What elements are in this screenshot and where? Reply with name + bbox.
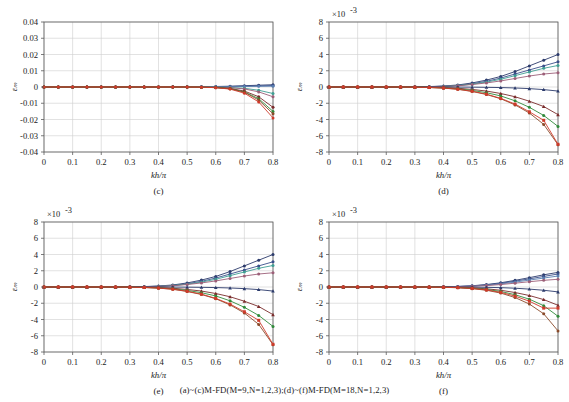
series-marker bbox=[542, 73, 545, 76]
y-tick-label: -2 bbox=[316, 98, 323, 108]
series-marker bbox=[214, 279, 217, 282]
y-tick-label: 2 bbox=[319, 266, 323, 276]
x-tick-label: 0.7 bbox=[239, 157, 250, 167]
figure-caption: (a)~(c)M-FD(M=9,N=1,2,3);(d)~(f)M-FD(M=1… bbox=[0, 385, 569, 395]
series-marker bbox=[272, 116, 275, 119]
x-tick-label: 0.1 bbox=[67, 357, 78, 367]
series-marker bbox=[71, 286, 74, 289]
y-tick-label: 8 bbox=[319, 17, 323, 27]
series-marker bbox=[243, 275, 246, 278]
x-tick-label: 0.8 bbox=[553, 157, 564, 167]
plot-d: 00.10.20.30.40.50.60.70.8-8-6-4-202468kh… bbox=[285, 0, 569, 196]
series-marker bbox=[229, 277, 232, 280]
y-tick-label: -0.02 bbox=[20, 115, 38, 125]
series-marker bbox=[528, 300, 531, 303]
axis-exponent: ×10-3 bbox=[332, 206, 357, 219]
series-marker bbox=[128, 286, 131, 289]
series-marker bbox=[557, 315, 560, 318]
series-marker bbox=[528, 106, 531, 109]
x-tick-label: 0.8 bbox=[553, 357, 564, 367]
x-tick-label: 0.6 bbox=[495, 357, 506, 367]
series-marker bbox=[499, 97, 502, 100]
x-axis-title: kh/π bbox=[151, 170, 167, 180]
svg-text:×10: ×10 bbox=[332, 10, 345, 19]
series-marker bbox=[456, 88, 459, 91]
series-marker bbox=[542, 67, 545, 70]
panel-e: 00.10.20.30.40.50.60.70.8-8-6-4-202468kh… bbox=[0, 200, 284, 396]
x-axis-title: kh/π bbox=[151, 370, 167, 380]
series-marker bbox=[171, 86, 174, 89]
x-tick-label: 0.4 bbox=[153, 157, 164, 167]
series-marker bbox=[485, 288, 488, 291]
series-marker bbox=[442, 87, 445, 90]
x-tick-label: 0.7 bbox=[524, 157, 535, 167]
x-tick-label: 0.6 bbox=[495, 157, 506, 167]
series-marker bbox=[57, 286, 60, 289]
series-marker bbox=[243, 310, 246, 313]
x-tick-label: 0.2 bbox=[96, 357, 107, 367]
series-marker bbox=[85, 286, 88, 289]
y-tick-label: 8 bbox=[34, 217, 38, 227]
series-marker bbox=[57, 86, 60, 89]
series-marker bbox=[100, 286, 103, 289]
series-marker bbox=[157, 86, 160, 89]
series-marker bbox=[456, 286, 459, 289]
y-tick-label: 8 bbox=[319, 217, 323, 227]
x-tick-label: 0.1 bbox=[352, 357, 363, 367]
x-tick-label: 0 bbox=[327, 357, 331, 367]
series-marker bbox=[243, 264, 246, 267]
series-marker bbox=[229, 88, 232, 91]
series-marker bbox=[272, 271, 275, 274]
y-tick-label: -4 bbox=[31, 315, 39, 325]
svg-text:-3: -3 bbox=[65, 206, 72, 215]
y-axis-title: εₘ bbox=[9, 282, 19, 291]
series-marker bbox=[542, 123, 545, 126]
svg-text:-3: -3 bbox=[350, 6, 357, 15]
series-marker bbox=[257, 319, 260, 322]
series-marker bbox=[100, 86, 103, 89]
series-marker bbox=[272, 95, 275, 98]
series-marker bbox=[542, 279, 545, 282]
series-marker bbox=[272, 92, 275, 95]
svg-text:×10: ×10 bbox=[47, 210, 60, 219]
x-tick-label: 0.2 bbox=[96, 157, 107, 167]
figure-container: 00.10.20.30.40.50.60.70.8-0.04-0.03-0.02… bbox=[0, 0, 569, 402]
series-marker bbox=[557, 143, 560, 146]
series-marker bbox=[528, 110, 531, 113]
x-tick-label: 0.3 bbox=[125, 157, 136, 167]
series-marker bbox=[370, 286, 373, 289]
y-tick-label: -2 bbox=[31, 298, 38, 308]
x-tick-label: 0 bbox=[42, 357, 46, 367]
series-marker bbox=[542, 114, 545, 117]
series-marker bbox=[471, 287, 474, 290]
y-tick-label: -0.04 bbox=[20, 147, 39, 157]
x-tick-label: 0 bbox=[42, 157, 46, 167]
series-marker bbox=[385, 286, 388, 289]
series-marker bbox=[428, 86, 431, 89]
y-tick-label: 0 bbox=[34, 282, 38, 292]
x-tick-label: 0.2 bbox=[381, 357, 392, 367]
series-marker bbox=[413, 86, 416, 89]
series-marker bbox=[514, 77, 517, 80]
series-marker bbox=[214, 297, 217, 300]
series-marker bbox=[399, 286, 402, 289]
x-tick-label: 0.7 bbox=[524, 357, 535, 367]
x-tick-label: 0.8 bbox=[268, 157, 279, 167]
x-tick-label: 0.8 bbox=[268, 357, 279, 367]
x-tick-label: 0.5 bbox=[467, 157, 478, 167]
series-marker bbox=[356, 86, 359, 89]
series-marker bbox=[556, 113, 560, 116]
y-tick-label: 6 bbox=[319, 33, 324, 43]
y-tick-label: 6 bbox=[319, 233, 324, 243]
x-tick-label: 0.4 bbox=[153, 357, 164, 367]
x-tick-label: 0.4 bbox=[438, 157, 449, 167]
y-tick-label: 6 bbox=[34, 233, 39, 243]
series-marker bbox=[157, 287, 160, 290]
series-marker bbox=[71, 86, 74, 89]
series-marker bbox=[342, 86, 345, 89]
x-tick-label: 0.1 bbox=[67, 157, 78, 167]
y-tick-label: 0 bbox=[319, 282, 323, 292]
y-tick-label: 0.01 bbox=[23, 66, 38, 76]
y-tick-label: 0.03 bbox=[23, 33, 38, 43]
series-marker bbox=[200, 86, 203, 89]
